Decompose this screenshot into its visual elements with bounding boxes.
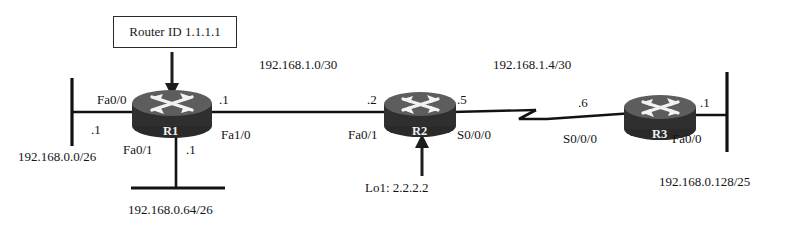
router-name-r2: R2 — [412, 125, 427, 138]
subnet-label-lan-left: 192.168.0.0/26 — [18, 150, 96, 163]
router-name-r3: R3 — [652, 128, 667, 141]
iface-addr-r2-s0-0-0: .5 — [457, 93, 467, 106]
iface-addr-r3-fa0-0: .1 — [700, 96, 710, 109]
iface-name-r3-fa0-0: Fa0/0 — [672, 132, 702, 145]
link-r2-zigzag — [452, 110, 536, 112]
subnet-label-r2-r3: 192.168.1.4/30 — [493, 58, 571, 71]
router-id-box[interactable]: Router ID 1.1.1.1 — [113, 16, 237, 48]
loopback-label-r2: Lo1: 2.2.2.2 — [365, 181, 429, 194]
subnet-label-lan-bottom: 192.168.0.64/26 — [128, 203, 213, 216]
subnet-label-r1-r2: 192.168.1.0/30 — [259, 58, 337, 71]
iface-name-r1-fa0-1: Fa0/1 — [123, 143, 153, 156]
iface-name-r1-fa0-0: Fa0/0 — [97, 93, 127, 106]
router-id-label: Router ID 1.1.1.1 — [129, 24, 220, 40]
iface-name-r2-s0-0-0: S0/0/0 — [457, 128, 491, 141]
iface-addr-r2-fa0-1: .2 — [367, 93, 377, 106]
iface-addr-r1-fa0-0: .1 — [91, 123, 101, 136]
iface-name-r3-s0-0-0: S0/0/0 — [563, 132, 597, 145]
iface-addr-r3-s0-0-0: .6 — [578, 96, 588, 109]
subnet-label-lan-right: 192.168.0.128/25 — [659, 175, 750, 188]
link-zigzag-r3 — [547, 113, 634, 119]
iface-addr-r1-fa1-0: .1 — [219, 93, 229, 106]
iface-addr-r1-fa0-1: .1 — [186, 143, 196, 156]
network-diagram: Router ID 1.1.1.1 R1 R2 R3 192.168.1.0/3… — [0, 0, 796, 235]
iface-name-r2-fa0-1: Fa0/1 — [348, 128, 378, 141]
iface-name-r1-fa1-0: Fa1/0 — [221, 128, 251, 141]
router-name-r1: R1 — [163, 125, 178, 138]
